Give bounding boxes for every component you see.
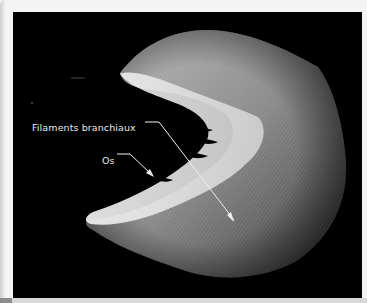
page-corner-tab [0,298,12,303]
gill-illustration [13,12,362,298]
page-bottom-strip [0,298,367,303]
gill-photograph: Filaments branchiaux Os [13,12,362,298]
label-filaments-branchiaux: Filaments branchiaux [32,122,136,133]
page-frame: Filaments branchiaux Os [0,0,367,303]
page-edge [0,0,5,303]
label-os: Os [102,155,115,166]
callout-os-line [117,154,154,177]
